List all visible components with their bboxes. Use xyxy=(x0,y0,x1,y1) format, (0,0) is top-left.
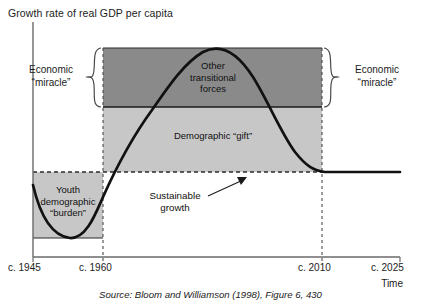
figure-container: Growth rate of real GDP per capita xyxy=(0,0,421,306)
label-economic-miracle-left-line2: “miracle” xyxy=(16,77,86,90)
label-economic-miracle-right: Economic “miracle” xyxy=(341,64,413,89)
x-axis-title: Time xyxy=(381,278,403,289)
label-sustainable-growth-line2: growth xyxy=(139,202,211,214)
label-other-transitional-forces-line2: transitional xyxy=(167,72,259,84)
label-sustainable-growth-line1: Sustainable xyxy=(139,190,211,202)
label-youth-demographic-burden: Youth demographic “burden” xyxy=(31,184,105,219)
label-economic-miracle-left: Economic “miracle” xyxy=(16,64,86,89)
sustainable-growth-arrow-head xyxy=(237,177,247,185)
label-other-transitional-forces-line1: Other xyxy=(167,60,259,72)
sustainable-growth-arrow-line xyxy=(208,180,243,196)
left-brace xyxy=(87,48,101,107)
x-tick-label-1945: c. 1945 xyxy=(8,262,41,273)
label-demographic-gift: Demographic “gift” xyxy=(152,130,274,142)
label-economic-miracle-left-line1: Economic xyxy=(16,64,86,77)
label-other-transitional-forces: Other transitional forces xyxy=(167,60,259,95)
label-economic-miracle-right-line2: “miracle” xyxy=(341,77,413,90)
label-youth-line2: demographic xyxy=(31,196,105,208)
x-tick-label-2010: c. 2010 xyxy=(298,262,331,273)
label-youth-line3: “burden” xyxy=(31,207,105,219)
chart-canvas xyxy=(0,0,421,306)
x-tick-label-1960: c. 1960 xyxy=(79,262,112,273)
label-sustainable-growth: Sustainable growth xyxy=(139,190,211,213)
x-tick-label-2025: c. 2025 xyxy=(371,262,404,273)
label-other-transitional-forces-line3: forces xyxy=(167,83,259,95)
right-brace xyxy=(324,48,338,107)
label-economic-miracle-right-line1: Economic xyxy=(341,64,413,77)
label-demographic-gift-text: Demographic “gift” xyxy=(152,130,274,142)
label-youth-line1: Youth xyxy=(31,184,105,196)
source-caption: Source: Bloom and Williamson (1998), Fig… xyxy=(0,289,421,300)
